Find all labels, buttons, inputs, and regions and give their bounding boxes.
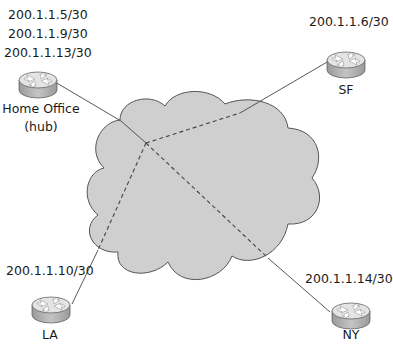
la-name: LA: [30, 326, 70, 344]
link-sf: [240, 58, 334, 113]
router-la-icon[interactable]: [32, 297, 70, 323]
la-address: 200.1.1.10/30: [6, 262, 94, 280]
ny-address: 200.1.1.14/30: [305, 270, 393, 288]
sf-address: 200.1.1.6/30: [309, 13, 389, 31]
ny-name: NY: [331, 326, 371, 344]
home-name: Home Office: [0, 100, 82, 118]
router-sf-icon[interactable]: [327, 52, 365, 78]
home-sub: (hub): [0, 118, 82, 136]
wan-cloud: [87, 91, 319, 279]
home-address-1: 200.1.1.5/30: [8, 6, 88, 24]
home-address-2: 200.1.1.9/30: [8, 25, 88, 43]
sf-name: SF: [326, 81, 366, 99]
router-home-icon[interactable]: [19, 72, 57, 98]
home-address-3: 200.1.1.13/30: [4, 44, 92, 62]
